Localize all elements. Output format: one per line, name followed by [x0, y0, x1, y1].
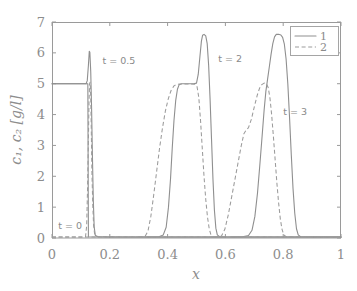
y-tick-label: 6 [37, 45, 45, 60]
y-axis-title: c₁, c₂ [g/l] [8, 95, 24, 165]
x-tick-label: 0.6 [215, 247, 236, 262]
concentration-profile-chart: 00.20.40.60.81 01234567 t = 0t = 0.5t = … [0, 0, 357, 291]
annotation-t2: t = 2 [218, 53, 242, 64]
x-tick-label: 0 [48, 247, 56, 262]
x-tick-label: 0.4 [157, 247, 178, 262]
legend-label-series-2: 2 [320, 41, 327, 54]
y-tick-label: 0 [37, 231, 45, 246]
annotation-t3: t = 3 [283, 106, 307, 117]
legend[interactable]: 1 2 [291, 27, 339, 56]
legend-box [291, 27, 339, 56]
x-tick-label: 0.8 [273, 247, 294, 262]
x-tick-label: 1 [337, 247, 345, 262]
y-tick-label: 2 [37, 169, 45, 184]
y-tick-label: 1 [37, 200, 45, 215]
x-axis-title: x [192, 266, 200, 282]
figure-container: 00.20.40.60.81 01234567 t = 0t = 0.5t = … [0, 0, 357, 291]
x-tick-label: 0.2 [99, 247, 120, 262]
y-tick-label: 5 [37, 76, 45, 91]
y-tick-label: 4 [37, 107, 45, 122]
annotation-t0.5: t = 0.5 [103, 55, 136, 66]
annotation-t0: t = 0 [58, 220, 82, 231]
y-tick-label: 7 [37, 15, 45, 30]
y-axis-title-group: c₁, c₂ [g/l] [8, 95, 24, 165]
y-tick-label: 3 [37, 138, 45, 153]
